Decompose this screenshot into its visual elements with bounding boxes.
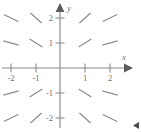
y-tick-label-neg2: -2 — [46, 113, 53, 123]
x-tick-label-pos2: 2 — [108, 73, 112, 83]
y-tick-label-pos1: 1 — [49, 38, 53, 48]
y-tick-label-neg1: -1 — [46, 88, 53, 98]
y-axis-label: y — [66, 4, 71, 13]
x-tick-label-neg2: -2 — [7, 73, 14, 83]
slope-field-figure: -2 -1 1 2 2 1 -1 -2 x y — [0, 0, 141, 132]
label-layer: -2 -1 1 2 2 1 -1 -2 x y — [0, 0, 141, 132]
y-tick-label-pos2: 2 — [49, 13, 53, 23]
x-tick-label-neg1: -1 — [32, 73, 39, 83]
x-tick-label-pos1: 1 — [83, 73, 87, 83]
x-axis-label: x — [121, 53, 126, 62]
